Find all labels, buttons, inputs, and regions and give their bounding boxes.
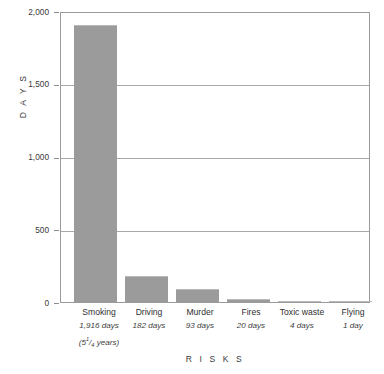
y-tick-mark-1000 xyxy=(54,158,59,159)
plot-area xyxy=(60,12,370,303)
x-value-flying: 1 day xyxy=(308,320,384,332)
y-tick-label-1000: 1,000 xyxy=(28,153,49,162)
y-tick-mark-0 xyxy=(54,303,59,304)
annotation-numerator: 1 xyxy=(86,336,89,342)
y-tick-mark-1500 xyxy=(54,85,59,86)
bar-chart: D A Y S 2,000 1,500 1,000 500 0 Smoking xyxy=(0,0,384,374)
bar-murder[interactable] xyxy=(176,289,219,302)
y-tick-mark-500 xyxy=(54,230,59,231)
bar-smoking[interactable] xyxy=(74,25,117,302)
x-annotation-smoking: (51/4 years) xyxy=(55,333,143,351)
annotation-suffix: years) xyxy=(94,338,119,347)
bar-flying[interactable] xyxy=(329,301,372,303)
y-tick-label-500: 500 xyxy=(35,226,49,235)
x-axis-labels: Smoking 1,916 days (51/4 years) Driving … xyxy=(60,306,370,358)
y-tick-label-1500: 1,500 xyxy=(28,80,49,89)
x-axis-title: R I S K S xyxy=(60,354,370,364)
x-label-group-flying: Flying 1 day xyxy=(308,306,384,332)
bar-toxic-waste[interactable] xyxy=(278,301,321,303)
annotation-whole: (5 xyxy=(79,338,86,347)
y-axis-ticks: 2,000 1,500 1,000 500 0 xyxy=(0,0,57,374)
y-tick-mark-2000 xyxy=(54,12,59,13)
bar-driving[interactable] xyxy=(125,276,168,302)
x-label-flying: Flying xyxy=(308,306,384,318)
bar-fires[interactable] xyxy=(227,299,270,302)
y-tick-label-0: 0 xyxy=(44,299,49,308)
bar-series xyxy=(61,13,369,302)
y-tick-label-2000: 2,000 xyxy=(28,8,49,17)
